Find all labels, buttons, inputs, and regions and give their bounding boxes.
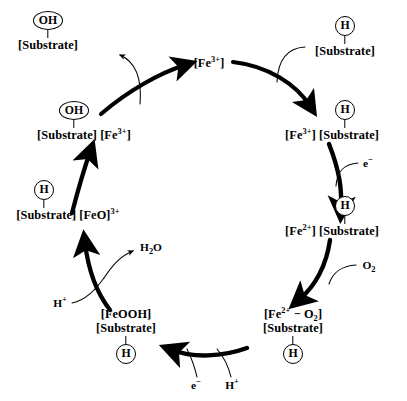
water-end: O (153, 241, 162, 253)
arrow-fe3-to-fe3substrate (233, 62, 310, 106)
node-fe3-free: [Fe3+] (194, 56, 225, 70)
fe2-substrate-prefix: [Fe (285, 224, 302, 238)
feo3-marker-tick (43, 200, 44, 208)
node-substrate-in: [Substrate] (315, 44, 375, 58)
product-oh-marker: OH (33, 11, 63, 30)
p450-cycle-diagram: OH [Substrate] [Fe3+] H [Substrate] H [F… (0, 0, 407, 401)
fe2-o2-mid: − O (290, 307, 313, 321)
feooh-line-1: [FeOOH] (96, 307, 156, 321)
fe2-o2-h-marker: H (283, 344, 303, 364)
electron-right-charge: − (368, 155, 373, 164)
fe2-substrate-suffix: ] [Substrate] (312, 224, 379, 238)
feooh-marker-tick (125, 336, 126, 344)
ohsub-fe3-marker-tick (73, 120, 74, 128)
substrate-in-marker-tick (344, 36, 345, 44)
fe2-o2-line-2: [Substrate] (263, 321, 323, 335)
node-fe3-substrate: [Fe3+] [Substrate] (285, 128, 379, 142)
arrow-feooh-to-feo3 (85, 243, 110, 310)
arrow-fe2o2-to-feooh (172, 348, 247, 355)
label-proton-left: H+ (53, 297, 67, 309)
fe3-substrate-charge: 3+ (302, 127, 311, 136)
label-proton-bottom: H+ (225, 379, 239, 391)
fe3-free-charge: 3+ (211, 55, 220, 64)
feo3-prefix: [Substrate] [FeO] (16, 208, 110, 222)
node-product-substrate: [Substrate] (18, 38, 78, 52)
fe2-o2-line-1: [Fe2+ − O2] (263, 307, 323, 321)
fe2-o2-prefix: [Fe (264, 307, 281, 321)
node-feo3-substrate: [Substrate] [FeO]3+ (16, 208, 119, 222)
electron-bottom-charge: − (196, 377, 201, 386)
ohsub-fe3-charge: 3+ (118, 127, 127, 136)
fe3-substrate-marker-tick (344, 120, 345, 128)
water-base: H (140, 241, 149, 253)
substrate-in-h-marker: H (335, 16, 355, 36)
feooh-line-2: [Substrate] (96, 321, 156, 335)
node-feooh-substrate: [FeOOH] [Substrate] (96, 307, 156, 335)
fe2-substrate-h-marker: H (335, 196, 355, 216)
substrate-in-label: [Substrate] (315, 44, 375, 58)
proton-bottom-base: H (225, 379, 234, 391)
label-electron-bottom: e− (191, 379, 201, 391)
feo3-charge: 3+ (111, 207, 120, 216)
fe3-substrate-h-marker: H (335, 100, 355, 120)
fe3-free-prefix: [Fe (194, 56, 211, 70)
ohsub-fe3-suffix: ] (127, 128, 131, 142)
arrow-feo3-to-ohsubstrate (72, 152, 90, 213)
feooh-h-marker: H (116, 344, 136, 364)
node-ohsub-fe3: [Substrate] [Fe3+] (37, 128, 131, 142)
ohsub-fe3-prefix: [Substrate] [Fe (37, 128, 117, 142)
fe3-substrate-suffix: ] [Substrate] (312, 128, 379, 142)
proton-left-charge: + (62, 295, 67, 304)
o2-base: O (362, 259, 371, 271)
fe3-free-suffix: ] (220, 56, 224, 70)
branch-water-out (104, 251, 133, 278)
fe2-o2-suffix: ] (318, 307, 322, 321)
o2-subscript: 2 (371, 265, 375, 274)
proton-bottom-charge: + (234, 377, 239, 386)
fe3-substrate-prefix: [Fe (285, 128, 302, 142)
label-dioxygen: O2 (362, 259, 375, 271)
fe2-substrate-marker-tick (344, 216, 345, 224)
label-electron-right: e− (363, 157, 373, 169)
fe2-o2-marker-tick (292, 336, 293, 344)
label-water: H2O (140, 241, 162, 253)
product-marker-tick (47, 30, 48, 38)
arrow-ohsubstrate-to-fe3 (101, 65, 185, 114)
arrow-fe2substrate-to-fe2o2 (299, 240, 330, 300)
proton-left-base: H (53, 297, 62, 309)
product-substrate-label: [Substrate] (18, 38, 78, 52)
fe2-substrate-charge: 2+ (302, 223, 311, 232)
node-fe2-o2-substrate: [Fe2+ − O2] [Substrate] (263, 307, 323, 335)
ohsub-fe3-oh-marker: OH (59, 101, 89, 120)
branch-o2 (329, 265, 356, 284)
node-fe2-substrate: [Fe2+] [Substrate] (285, 224, 379, 238)
feo3-h-marker: H (34, 180, 54, 200)
